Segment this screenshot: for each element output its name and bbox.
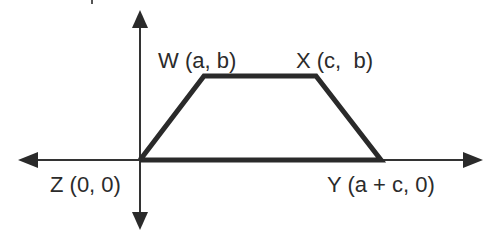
- point-label-w: W (a, b): [158, 48, 236, 73]
- y-axis-down-arrow-icon: [132, 212, 148, 230]
- x-axis-right-arrow-icon: [463, 152, 483, 168]
- trapezoid-outline: [140, 76, 381, 160]
- y-axis-up-arrow-icon: [132, 10, 148, 28]
- axes: [18, 10, 483, 230]
- trapezoid-diagram: W (a, b) X (c, b) Z (0, 0) Y (a + c, 0): [0, 0, 485, 232]
- x-axis-left-arrow-icon: [18, 152, 38, 168]
- cropped-text-fragment: [91, 0, 93, 4]
- point-label-y: Y (a + c, 0): [327, 172, 435, 197]
- point-label-x: X (c, b): [296, 48, 373, 73]
- point-label-z: Z (0, 0): [50, 172, 121, 197]
